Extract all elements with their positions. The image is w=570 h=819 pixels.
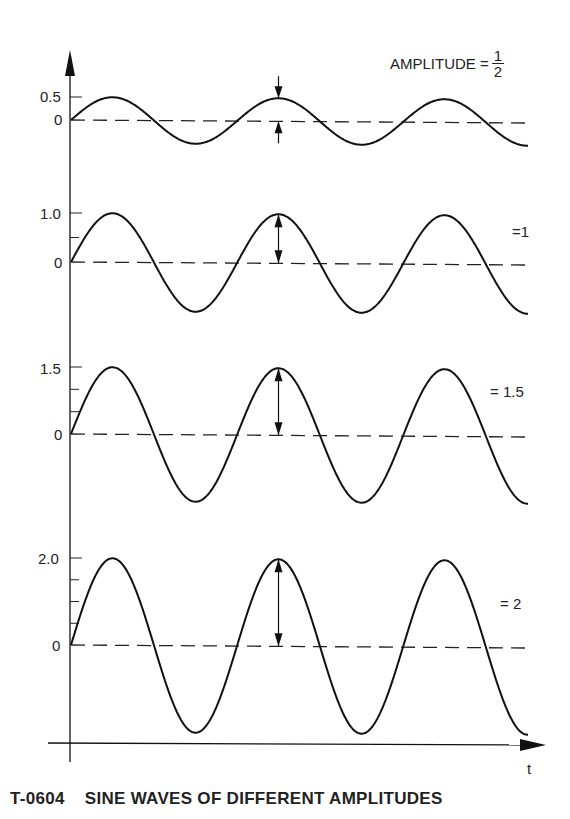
y-axis-arrow-icon <box>65 50 75 76</box>
zero-label-3: 0 <box>54 426 62 443</box>
zero-baseline <box>71 434 528 437</box>
arrow-up-icon <box>275 214 283 227</box>
y-tick-label-2.0: 2.0 <box>38 550 59 567</box>
figure-title: SINE WAVES OF DIFFERENT AMPLITUDES <box>85 789 443 808</box>
figure-id: T-0604 <box>10 789 65 808</box>
arrow-down-icon <box>275 250 283 263</box>
amplitude-label-half: AMPLITUDE = 1 2 <box>390 48 504 79</box>
amplitude-prefix: AMPLITUDE = <box>390 55 489 72</box>
x-axis-label: t <box>527 760 531 777</box>
y-tick-label-1.5: 1.5 <box>40 360 61 377</box>
fraction-numerator: 1 <box>492 48 504 64</box>
amplitude-label-1.5: = 1.5 <box>490 383 524 400</box>
zero-baseline <box>71 262 528 265</box>
zero-label-2: 0 <box>54 254 62 271</box>
figure-caption: T-0604 SINE WAVES OF DIFFERENT AMPLITUDE… <box>10 789 443 809</box>
wave-panel-4 <box>70 558 528 735</box>
x-axis <box>48 743 528 745</box>
y-tick-label-1.0: 1.0 <box>40 205 61 222</box>
arrow-up-icon <box>275 559 283 572</box>
wave-panel-2 <box>70 213 528 314</box>
fraction-one-half: 1 2 <box>492 48 504 79</box>
x-axis-arrow-icon <box>520 739 546 751</box>
zero-baseline <box>71 120 528 123</box>
amplitude-label-2: = 2 <box>500 595 521 612</box>
wave-panel-3 <box>70 367 528 504</box>
arrow-up-icon <box>275 121 283 133</box>
zero-baseline <box>71 645 528 648</box>
arrow-down-icon <box>275 633 283 646</box>
zero-label-1: 0 <box>54 111 62 128</box>
sine-wave-plot <box>0 0 570 819</box>
amplitude-label-1: =1 <box>512 223 529 240</box>
zero-label-4: 0 <box>52 637 60 654</box>
fraction-denominator: 2 <box>494 64 502 79</box>
arrow-down-icon <box>275 86 283 98</box>
wave-panel-1 <box>70 76 528 145</box>
arrow-down-icon <box>275 422 283 435</box>
y-tick-label-0.5: 0.5 <box>40 88 61 105</box>
arrow-up-icon <box>275 368 283 381</box>
